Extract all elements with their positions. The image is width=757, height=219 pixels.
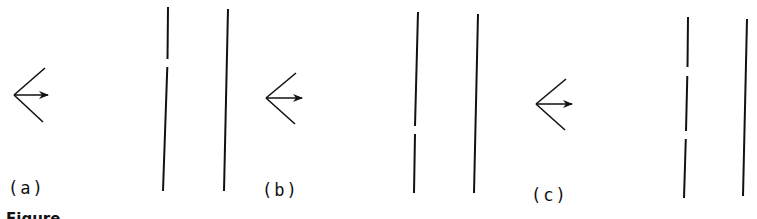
observer-eye-icon bbox=[536, 79, 572, 130]
panel-a bbox=[14, 7, 228, 191]
broken-line-b bbox=[414, 12, 418, 193]
broken-line-c bbox=[684, 17, 688, 198]
panel-c bbox=[536, 17, 747, 198]
panel-label-b: (b) bbox=[262, 180, 299, 200]
figure-caption: Figure bbox=[6, 210, 60, 219]
panel-label-c: (c) bbox=[531, 185, 568, 205]
solid-line-b bbox=[474, 14, 478, 193]
observer-eye-icon bbox=[266, 73, 302, 124]
panel-b bbox=[266, 12, 478, 193]
figure-diagram bbox=[0, 0, 757, 219]
observer-eye-icon bbox=[14, 68, 48, 122]
solid-line-a bbox=[224, 9, 228, 191]
broken-line-a bbox=[163, 7, 168, 191]
panel-label-a: (a) bbox=[8, 178, 45, 198]
solid-line-c bbox=[743, 19, 747, 196]
